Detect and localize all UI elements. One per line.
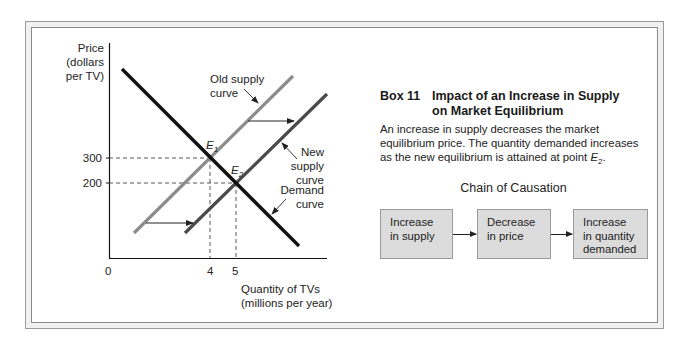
y-tick-300: 300 (80, 151, 102, 165)
y-axis-label: Price (dollars per TV) (38, 41, 104, 83)
equilibrium-e2-label: E2 (231, 163, 243, 182)
box-description: An increase in supply decreases the mark… (380, 122, 650, 169)
chain-arrow-1 (453, 234, 476, 235)
x-axis-label-line1: Quantity of TVs (241, 282, 332, 296)
equilibrium-guides (109, 158, 236, 258)
new-supply-label: New supply curve (262, 145, 324, 187)
chain-arrow-2 (551, 234, 572, 235)
chain-step-increase-supply: Increase in supply (380, 209, 453, 259)
box-title-line1: Impact of an Increase in Supply (432, 89, 620, 103)
x-axis-label-line2: (millions per year) (241, 296, 332, 310)
chain-step-decrease-price: Decrease in price (477, 209, 551, 259)
chain-of-causation-title: Chain of Causation (380, 181, 647, 195)
box-title-line2: on Market Equilibrium (380, 104, 620, 119)
y-tick-200: 200 (80, 176, 102, 190)
chain-step-increase-quantity: Increase in quantity demanded (573, 209, 648, 259)
x-tick-5: 5 (232, 264, 238, 278)
box-number: Box 11 (380, 89, 432, 104)
box-title: Box 11Impact of an Increase in Supply on… (380, 89, 620, 119)
demand-label: Demand curve (270, 183, 324, 211)
x-axis-label: Quantity of TVs (millions per year) (241, 282, 332, 310)
old-supply-label: Old supply curve (210, 72, 264, 100)
y-axis-label-line2: per TV) (38, 69, 104, 83)
origin-label: 0 (105, 264, 111, 278)
x-tick-4: 4 (207, 264, 213, 278)
equilibrium-e1-label: E1 (206, 138, 218, 157)
y-axis-label-line1: Price (dollars (38, 41, 104, 69)
